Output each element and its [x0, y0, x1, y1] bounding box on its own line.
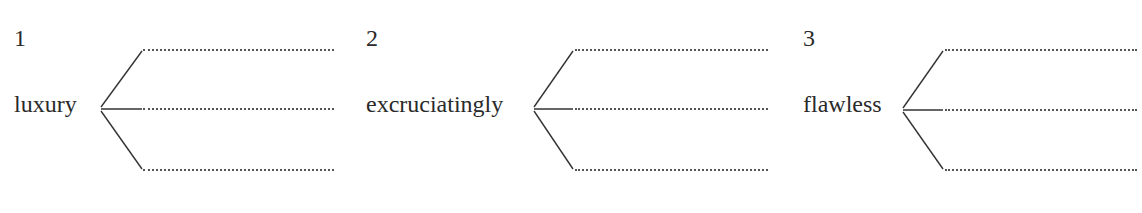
answer-blank-middle[interactable]: [945, 109, 1137, 111]
word-tree-3: 3 flawless: [0, 0, 1142, 213]
branch-lines: [0, 0, 1142, 213]
answer-blank-top[interactable]: [945, 49, 1137, 51]
answer-blank-bottom[interactable]: [945, 169, 1137, 171]
